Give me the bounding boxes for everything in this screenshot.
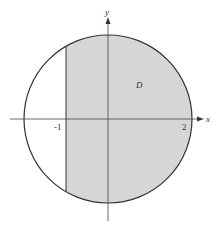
region-diagram: x y -1 2 D: [0, 0, 221, 227]
diagram-canvas: x y -1 2 D: [0, 0, 221, 227]
shaded-region-d: [66, 30, 216, 210]
x-axis-label: x: [205, 114, 210, 124]
tick-label-2: 2: [182, 122, 187, 132]
y-axis-arrow-icon: [106, 17, 111, 24]
x-axis-arrow-icon: [197, 117, 204, 122]
tick-label-minus-1: -1: [54, 122, 62, 132]
region-label-d: D: [135, 80, 143, 90]
y-axis-label: y: [104, 7, 109, 17]
